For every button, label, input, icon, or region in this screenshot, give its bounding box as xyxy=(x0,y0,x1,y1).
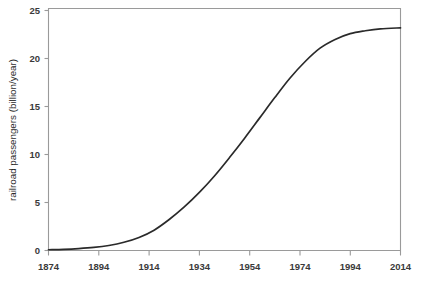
y-tick-labels: 25 20 15 10 5 0 xyxy=(29,5,40,256)
y-tick-label: 20 xyxy=(29,53,40,64)
y-tick-label: 5 xyxy=(35,197,41,208)
y-axis-ticks xyxy=(45,11,49,251)
chart-figure: 25 20 15 10 5 0 1874 1894 1914 1934 1954… xyxy=(0,0,422,284)
x-tick-label: 1874 xyxy=(38,261,60,272)
y-axis-label: railroad passengers (billion/year) xyxy=(7,59,18,201)
data-series-line xyxy=(49,28,401,250)
y-tick-label: 25 xyxy=(29,5,40,16)
x-tick-label: 1994 xyxy=(340,261,362,272)
x-tick-label: 1914 xyxy=(139,261,161,272)
x-tick-label: 1934 xyxy=(189,261,211,272)
x-tick-label: 1954 xyxy=(239,261,261,272)
x-tick-label: 2014 xyxy=(390,261,412,272)
plot-frame xyxy=(49,9,401,251)
x-tick-label: 1974 xyxy=(289,261,311,272)
x-tick-label: 1894 xyxy=(88,261,110,272)
y-tick-label: 15 xyxy=(29,101,40,112)
line-chart: 25 20 15 10 5 0 1874 1894 1914 1934 1954… xyxy=(0,0,422,284)
x-axis-ticks xyxy=(49,251,401,256)
y-tick-label: 0 xyxy=(35,245,40,256)
y-tick-label: 10 xyxy=(29,149,40,160)
x-tick-labels: 1874 1894 1914 1934 1954 1974 1994 2014 xyxy=(38,261,412,272)
